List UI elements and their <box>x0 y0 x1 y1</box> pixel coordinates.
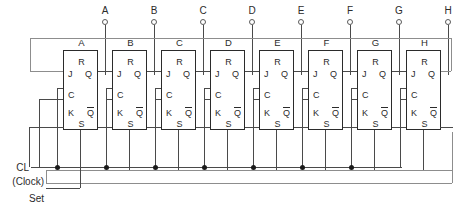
flipflop-h-pin-s: S <box>407 120 442 129</box>
set-drop-h <box>423 130 424 170</box>
flipflop-c-qbar-glyph: Q <box>185 109 192 118</box>
clock-drop-c <box>155 100 156 167</box>
flipflop-h-pin-j: J <box>411 70 416 79</box>
set-label: Set <box>0 193 44 204</box>
flipflop-d-clock-notch <box>204 88 210 100</box>
set-drop-g <box>374 130 375 170</box>
flipflop-b-pin-q: Q <box>134 70 141 79</box>
flipflop-a-pin-s: S <box>64 120 99 129</box>
flipflop-h-pin-q: Q <box>428 70 435 79</box>
set-bus-line <box>46 170 452 171</box>
flipflop-e-qbar-glyph: Q <box>283 109 290 118</box>
output-label-f: F <box>343 6 357 16</box>
flipflop-h-qbar-glyph: Q <box>430 109 437 118</box>
set-drop-e <box>276 130 277 170</box>
flipflop-c-pin-c: C <box>166 91 173 100</box>
flipflop-d-pin-j: J <box>215 70 220 79</box>
flipflop-b-pin-r: R <box>113 58 148 67</box>
flipflop-b-pin-j: J <box>117 70 122 79</box>
set-input-line <box>46 188 80 189</box>
clink-c-d <box>195 127 211 128</box>
flipflop-g-pin-r: R <box>358 58 393 67</box>
clink-b-c <box>146 127 162 128</box>
flipflop-f-pin-c: C <box>313 91 320 100</box>
output-label-b: B <box>147 6 161 16</box>
link-g-h <box>391 71 407 72</box>
flipflop-f-pin-r: R <box>309 58 344 67</box>
flipflop-h-title: H <box>407 37 442 48</box>
output-wire-g <box>399 25 400 75</box>
link-c-d <box>195 71 211 72</box>
output-label-c: C <box>196 6 210 16</box>
flipflop-d-pin-c: C <box>215 91 222 100</box>
flipflop-e-pin-s: S <box>260 120 295 129</box>
flipflop-h-pin-k: K <box>411 109 417 118</box>
flipflop-g-clock-notch <box>351 88 357 100</box>
feedback-k-a-riser <box>29 127 30 167</box>
flipflop-h-pin-qbar: Q <box>430 109 437 118</box>
flipflop-f-title: F <box>309 37 344 48</box>
flipflop-f-qbar-glyph: Q <box>332 109 339 118</box>
flipflop-a-pin-qbar: Q <box>87 109 94 118</box>
flipflop-e-pin-c: C <box>264 91 271 100</box>
flipflop-e-title: E <box>260 37 295 48</box>
output-wire-e <box>301 25 302 75</box>
flipflop-f[interactable]: F R J Q C K Q S <box>308 50 343 130</box>
link-e-f <box>293 71 309 72</box>
flipflop-a-qbar-glyph: Q <box>87 109 94 118</box>
flipflop-g-pin-j: J <box>362 70 367 79</box>
set-bus-left-riser <box>46 170 47 183</box>
flipflop-d-qbar-glyph: Q <box>234 109 241 118</box>
flipflop-d-title: D <box>211 37 246 48</box>
flipflop-e-clock-notch <box>253 88 259 100</box>
link-f-g <box>342 71 358 72</box>
flipflop-e-pin-r: R <box>260 58 295 67</box>
flipflop-b-qbar-glyph: Q <box>136 109 143 118</box>
reset-bus-left-drop <box>30 38 31 71</box>
set-drop-c <box>178 130 179 170</box>
clock-a-riser <box>39 99 40 167</box>
flipflop-d-pin-q: Q <box>232 70 239 79</box>
flipflop-c-pin-k: K <box>166 109 172 118</box>
feedback-k-a-feed <box>29 127 64 128</box>
output-wire-c <box>203 25 204 75</box>
output-label-g: G <box>392 6 406 16</box>
flipflop-e[interactable]: E R J Q C K Q S <box>259 50 294 130</box>
flipflop-h-pin-r: R <box>407 58 442 67</box>
flipflop-b[interactable]: B R J Q C K Q S <box>112 50 147 130</box>
flipflop-d-pin-k: K <box>215 109 221 118</box>
flipflop-d-pin-qbar: Q <box>234 109 241 118</box>
flipflop-c-clock-notch <box>155 88 161 100</box>
flipflop-a[interactable]: A R J Q C K Q S <box>63 50 98 130</box>
flipflop-f-pin-j: J <box>313 70 318 79</box>
output-label-a: A <box>98 6 112 16</box>
flipflop-h-pin-c: C <box>411 91 418 100</box>
output-wire-b <box>154 25 155 75</box>
flipflop-b-pin-k: K <box>117 109 123 118</box>
clink-g-h <box>391 127 407 128</box>
clock-drop-g <box>351 100 352 167</box>
flipflop-b-clock-notch <box>106 88 112 100</box>
flipflop-d[interactable]: D R J Q C K Q S <box>210 50 245 130</box>
flipflop-d-pin-r: R <box>211 58 246 67</box>
flipflop-c[interactable]: C R J Q C K Q S <box>161 50 196 130</box>
flipflop-c-pin-r: R <box>162 58 197 67</box>
output-label-h: H <box>441 6 455 16</box>
clock-drop-h <box>400 100 401 167</box>
clink-a-b <box>97 127 113 128</box>
output-wire-f <box>350 25 351 75</box>
flipflop-g[interactable]: G R J Q C K Q S <box>357 50 392 130</box>
link-a-b <box>97 71 113 72</box>
link-d-e <box>244 71 260 72</box>
flipflop-g-pin-s: S <box>358 120 393 129</box>
set-a-riser <box>80 130 81 188</box>
set-bus-right-riser <box>452 132 453 183</box>
flipflop-g-qbar-glyph: Q <box>381 109 388 118</box>
set-drop-d <box>227 130 228 170</box>
flipflop-h[interactable]: H R J Q C K Q S <box>406 50 441 130</box>
flipflop-g-pin-qbar: Q <box>381 109 388 118</box>
reset-bus-left-feed <box>30 71 64 72</box>
output-wire-h <box>448 25 449 75</box>
set-drop-b <box>129 130 130 170</box>
flipflop-a-pin-c: C <box>68 91 75 100</box>
